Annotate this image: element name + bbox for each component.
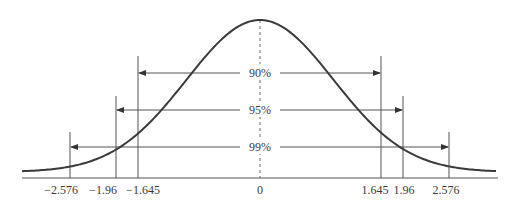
- tick-label-neg-2576: −2.576: [44, 183, 78, 197]
- tick-label-neg-1645: −1.645: [126, 183, 160, 197]
- label-95-percent: 95%: [249, 103, 271, 117]
- tick-label-pos-196: 1.96: [394, 183, 415, 197]
- tick-label-pos-2576: 2.576: [433, 183, 460, 197]
- normal-distribution-diagram: 90% 95% 99% −2.576 −1.96 −1.645 0 1.645 …: [0, 0, 516, 207]
- tick-label-neg-196: −1.96: [89, 183, 117, 197]
- diagram-canvas: 90% 95% 99% −2.576 −1.96 −1.645 0 1.645 …: [0, 0, 516, 207]
- label-90-percent: 90%: [249, 66, 271, 80]
- label-99-percent: 99%: [249, 140, 271, 154]
- tick-label-pos-1645: 1.645: [362, 183, 389, 197]
- tick-label-zero: 0: [257, 183, 263, 197]
